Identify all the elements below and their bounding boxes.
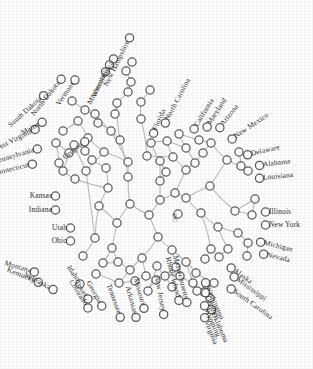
tree-node <box>182 194 190 202</box>
tree-node <box>145 211 153 219</box>
tree-leaf-label: New York <box>269 220 300 229</box>
tree-node <box>138 254 146 262</box>
radial-tree-figure: New HampshireIowaWisconsinMinnesotaVermo… <box>0 0 313 369</box>
tree-node <box>156 157 164 165</box>
tree-leaf-label: Tennessee <box>105 282 124 315</box>
tree-node <box>143 152 151 160</box>
tree-node <box>113 99 121 107</box>
tree-node <box>124 88 132 96</box>
tree-node <box>163 137 171 145</box>
tree-edge <box>75 179 108 188</box>
tree-leaf-node <box>51 206 59 214</box>
tree-node <box>142 272 150 280</box>
tree-leaf-node <box>183 298 191 306</box>
tree-node <box>71 175 79 183</box>
tree-leaf-node <box>66 237 74 245</box>
tree-leaf-label: Indiana <box>29 205 53 214</box>
tree-node <box>137 115 145 123</box>
tree-node <box>104 184 112 192</box>
tree-node <box>111 110 119 118</box>
tree-node <box>162 168 170 176</box>
tree-node <box>248 211 256 219</box>
tree-node <box>146 86 154 94</box>
tree-node <box>81 106 89 114</box>
tree-node <box>124 173 132 181</box>
tree-node <box>182 166 190 174</box>
tree-node <box>79 252 87 260</box>
tree-node <box>235 148 243 156</box>
tree-node <box>137 98 145 106</box>
tree-node <box>92 270 100 278</box>
tree-node <box>191 159 199 167</box>
tree-node <box>107 127 115 135</box>
tree-leaf-label: Kansas <box>30 191 52 200</box>
tree-node <box>201 255 209 263</box>
tree-node <box>156 196 164 204</box>
tree-node <box>115 279 123 287</box>
tree-node <box>243 252 251 260</box>
tree-edge <box>95 206 99 238</box>
tree-node <box>99 259 107 267</box>
tree-node <box>122 67 130 75</box>
tree-node <box>114 258 122 266</box>
tree-node <box>231 207 239 215</box>
tree-node <box>88 156 96 164</box>
tree-node <box>128 58 136 66</box>
radial-tree-svg: New HampshireIowaWisconsinMinnesotaVermo… <box>0 0 313 369</box>
tree-leaf-node <box>28 160 36 168</box>
tree-node <box>126 266 134 274</box>
tree-node <box>108 244 116 252</box>
tree-node <box>195 136 203 144</box>
tree-node <box>169 153 177 161</box>
tree-node <box>244 239 252 247</box>
center-node-label: DC <box>171 213 179 223</box>
tree-leaf-label: North Carolina <box>162 76 192 122</box>
tree-node <box>156 177 164 185</box>
tree-node <box>153 262 161 270</box>
tree-edge <box>86 171 95 238</box>
tree-node <box>182 144 190 152</box>
tree-node <box>171 189 179 197</box>
tree-node <box>74 117 82 125</box>
tree-node <box>206 182 214 190</box>
tree-node <box>126 200 134 208</box>
tree-node <box>94 119 102 127</box>
tree-edge <box>210 186 235 211</box>
tree-edge <box>141 119 147 156</box>
tree-node <box>116 136 124 144</box>
tree-node <box>91 110 99 118</box>
tree-node <box>192 269 200 277</box>
tree-edge <box>117 103 120 140</box>
tree-node <box>154 233 162 241</box>
tree-node <box>52 139 60 147</box>
tree-node <box>234 229 242 237</box>
tree-leaf-label: Illinois <box>269 207 291 216</box>
tree-node <box>82 167 90 175</box>
tree-leaf-node <box>51 192 59 200</box>
tree-leaf-label: Alabama <box>262 156 291 168</box>
tree-leaf-label: New Mexico <box>232 110 270 140</box>
tree-node <box>199 149 207 157</box>
tree-node <box>193 287 201 295</box>
tree-leaf-label: Ohio <box>52 236 68 245</box>
tree-node <box>251 195 259 203</box>
tree-node <box>197 209 205 217</box>
tree-leaf-label: Minnesota <box>85 72 108 106</box>
tree-node <box>224 245 232 253</box>
tree-node <box>244 167 252 175</box>
tree-leaf-node <box>160 310 168 318</box>
tree-node <box>91 234 99 242</box>
tree-leaf-label: Delaware <box>250 142 281 158</box>
tree-node <box>59 127 67 135</box>
tree-node <box>102 164 110 172</box>
tree-node <box>207 139 215 147</box>
tree-node <box>168 246 176 254</box>
tree-node <box>147 139 155 147</box>
tree-leaf-node <box>66 224 74 232</box>
tree-node <box>100 148 108 156</box>
tree-node <box>207 245 215 253</box>
tree-leaf-label: Utah <box>52 223 67 232</box>
tree-node <box>113 219 121 227</box>
tree-node <box>223 156 231 164</box>
tree-node <box>59 167 67 175</box>
